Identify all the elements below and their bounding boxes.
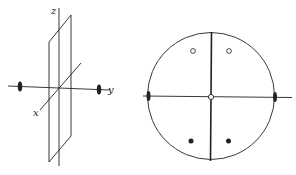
- open-circle-icon: [191, 49, 196, 54]
- symmetry-diagram: z y x: [0, 0, 296, 175]
- z-axis-label: z: [50, 5, 57, 16]
- twofold-axis-icon: [147, 91, 151, 101]
- open-circle-icon: [227, 49, 232, 54]
- twofold-axis-icon: [97, 85, 101, 95]
- stereogram-panel: [143, 32, 292, 161]
- x-axis-label: x: [33, 107, 39, 118]
- axes-3d-panel: [8, 8, 110, 166]
- x-axis: [40, 63, 81, 110]
- filled-dot-icon: [226, 139, 231, 144]
- filled-dot-icon: [189, 139, 194, 144]
- center-open-circle-icon: [208, 94, 213, 99]
- y-axis-label: y: [107, 84, 114, 95]
- twofold-axis-icon: [18, 82, 22, 92]
- horizontal-axis-line: [143, 96, 292, 98]
- twofold-axis-icon: [273, 92, 277, 102]
